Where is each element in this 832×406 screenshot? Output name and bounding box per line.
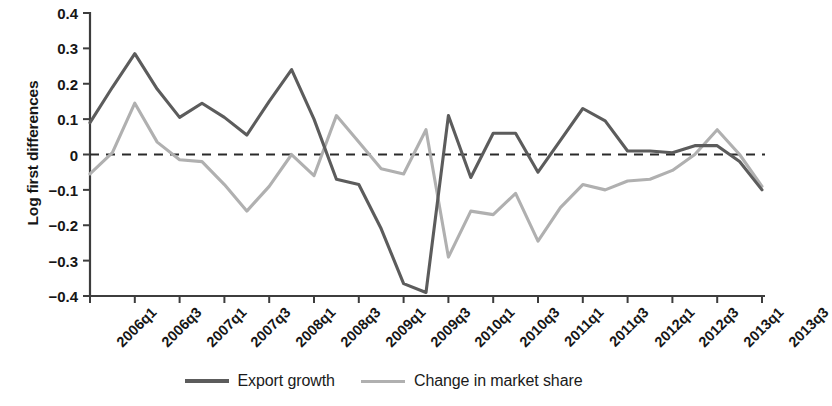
- series-line-change-in-market-share: [90, 103, 762, 257]
- y-axis-tick-label: −0.1: [34, 181, 78, 198]
- y-axis-tick-label: −0.3: [34, 252, 78, 269]
- y-axis-tick-label: 0.2: [34, 75, 78, 92]
- x-axis-tick-label: 2013q3: [785, 304, 831, 350]
- legend-label: Export growth: [238, 372, 335, 390]
- y-axis-tick-label: 0.4: [34, 5, 78, 22]
- legend-color-swatch: [361, 380, 405, 383]
- y-axis-tick-label: 0: [34, 146, 78, 163]
- legend-entry: Change in market share: [361, 372, 583, 390]
- legend-label: Change in market share: [414, 372, 583, 390]
- y-axis-tick-label: 0.3: [34, 40, 78, 57]
- series-line-export-growth: [90, 54, 762, 293]
- chart-legend: Export growthChange in market share: [0, 372, 767, 390]
- legend-color-swatch: [185, 379, 229, 383]
- y-axis-tick-label: −0.2: [34, 217, 78, 234]
- y-axis-tick-label: −0.4: [34, 288, 78, 305]
- y-axis-tick-labels: 0.40.30.20.10−0.1−0.2−0.3−0.4: [24, 0, 78, 406]
- legend-entry: Export growth: [185, 372, 335, 390]
- y-axis-tick-label: 0.1: [34, 111, 78, 128]
